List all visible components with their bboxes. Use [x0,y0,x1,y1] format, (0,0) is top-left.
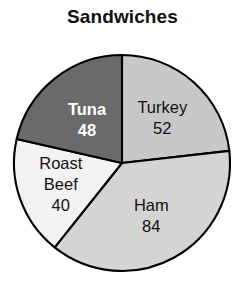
pie-label-turkey: Turkey [137,98,188,116]
pie-chart-figure: Sandwiches Turkey52Ham84RoastBeef40Tuna4… [0,0,245,296]
pie-value-ham: 84 [142,217,160,235]
pie-label-roast-beef: Beef [44,175,78,193]
pie-value-tuna: 48 [78,121,96,139]
pie-chart-svg: Turkey52Ham84RoastBeef40Tuna48 [0,0,245,296]
pie-label-ham: Ham [134,196,169,214]
pie-label-tuna: Tuna [68,100,107,118]
pie-value-roast-beef: 40 [52,196,70,214]
pie-value-turkey: 52 [153,119,171,137]
pie-label-roast-beef: Roast [39,154,83,172]
